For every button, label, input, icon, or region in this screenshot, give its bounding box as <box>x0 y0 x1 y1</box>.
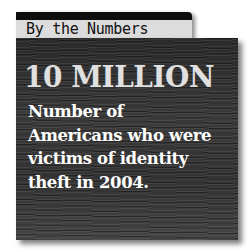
stat-value: 10 MILLION <box>24 60 221 94</box>
section-tab: By the Numbers <box>16 12 192 38</box>
description-line: Number of <box>28 100 233 124</box>
stat-description: Number of Americans who were victims of … <box>28 100 233 194</box>
description-line: Americans who were <box>28 124 233 148</box>
stat-panel: 10 MILLION Number of Americans who were … <box>16 38 238 240</box>
tab-top-bar <box>16 12 192 20</box>
description-line: victims of identity <box>28 147 233 171</box>
description-line: theft in 2004. <box>28 171 233 195</box>
tab-label: By the Numbers <box>16 20 192 38</box>
